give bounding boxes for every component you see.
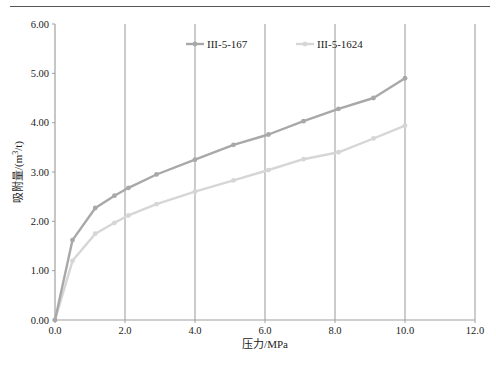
data-point-marker bbox=[301, 119, 306, 124]
data-point-marker bbox=[112, 193, 117, 198]
data-point-marker bbox=[231, 142, 236, 147]
y-tick-label: 1.00 bbox=[31, 265, 49, 276]
legend-label: III-5-1624 bbox=[317, 38, 363, 50]
data-point-marker bbox=[336, 106, 341, 111]
legend-label: III-5-167 bbox=[207, 38, 248, 50]
data-point-marker bbox=[93, 206, 98, 211]
x-tick-label: 6.0 bbox=[258, 325, 271, 336]
data-point-marker bbox=[126, 185, 131, 190]
y-tick-label: 6.00 bbox=[31, 19, 49, 30]
data-point-marker bbox=[154, 172, 159, 177]
data-point-marker bbox=[126, 213, 131, 218]
x-tick-label: 8.0 bbox=[328, 325, 341, 336]
data-point-marker bbox=[403, 76, 408, 81]
legend: III-5-167III-5-1624 bbox=[186, 38, 363, 50]
vertical-gridlines bbox=[125, 24, 475, 320]
x-axis-ticks: 0.02.04.06.08.010.012.0 bbox=[48, 320, 484, 336]
data-point-marker bbox=[371, 136, 376, 141]
data-point-marker bbox=[336, 150, 341, 155]
data-point-marker bbox=[231, 178, 236, 183]
data-point-marker bbox=[371, 96, 376, 101]
y-tick-label: 4.00 bbox=[31, 117, 49, 128]
legend-marker bbox=[193, 42, 198, 47]
x-tick-label: 2.0 bbox=[118, 325, 131, 336]
adsorption-chart: 0.02.04.06.08.010.012.0 0.001.002.003.00… bbox=[0, 0, 496, 366]
y-tick-label: 3.00 bbox=[31, 167, 49, 178]
data-point-marker bbox=[93, 231, 98, 236]
y-axis-ticks: 0.001.002.003.004.005.006.00 bbox=[31, 19, 55, 326]
data-point-marker bbox=[403, 123, 408, 128]
data-point-marker bbox=[154, 202, 159, 207]
y-tick-label: 2.00 bbox=[31, 216, 49, 227]
x-tick-label: 4.0 bbox=[188, 325, 201, 336]
x-tick-label: 12.0 bbox=[466, 325, 484, 336]
data-point-marker bbox=[266, 132, 271, 137]
data-point-marker bbox=[53, 318, 58, 323]
x-axis-title: 压力/MPa bbox=[242, 338, 288, 350]
data-point-marker bbox=[301, 157, 306, 162]
y-tick-label: 0.00 bbox=[31, 315, 49, 326]
data-point-marker bbox=[266, 168, 271, 173]
y-tick-label: 5.00 bbox=[31, 68, 49, 79]
data-point-marker bbox=[112, 220, 117, 225]
data-point-marker bbox=[193, 157, 198, 162]
legend-marker bbox=[303, 42, 308, 47]
data-point-marker bbox=[70, 258, 75, 263]
x-tick-label: 10.0 bbox=[396, 325, 414, 336]
series-line bbox=[55, 78, 405, 320]
series-line bbox=[55, 126, 405, 320]
y-axis-title: 吸附量/(m3/t) bbox=[11, 141, 25, 203]
x-tick-label: 0.0 bbox=[48, 325, 61, 336]
data-point-marker bbox=[70, 238, 75, 243]
data-point-marker bbox=[193, 189, 198, 194]
data-series bbox=[53, 76, 408, 323]
